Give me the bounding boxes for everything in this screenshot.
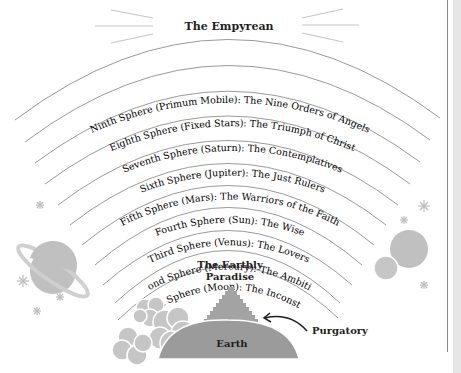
star-icon xyxy=(36,201,44,209)
earthly-paradise-label-line2: Paradise xyxy=(206,271,254,282)
earth-label: Earth xyxy=(216,338,248,349)
sphere-6-label: Sixth Sphere (Jupiter): The Just Rulers xyxy=(138,167,327,195)
cloud-icon xyxy=(112,327,152,365)
star-icon xyxy=(17,275,29,287)
arc-outer xyxy=(15,39,440,120)
diagram-canvas: The Empyrean Ninth Sphere (Primum Mobile… xyxy=(0,0,461,373)
star-icon xyxy=(420,281,428,289)
ringed-planet-icon xyxy=(13,239,93,304)
empyrean-label: The Empyrean xyxy=(184,20,273,33)
star-icon xyxy=(56,293,64,301)
earthly-paradise-label-line1: The Earthly xyxy=(197,259,264,270)
star-icon xyxy=(400,216,408,224)
star-icon xyxy=(418,200,430,212)
panel-divider xyxy=(447,0,448,352)
dante-paradise-diagram: The Empyrean Ninth Sphere (Primum Mobile… xyxy=(0,0,461,373)
planets-icon xyxy=(374,230,428,280)
purgatory-label: Purgatory xyxy=(312,325,369,336)
side-panel-edge xyxy=(453,0,461,373)
star-icon xyxy=(33,307,41,315)
sphere-9-label: Ninth Sphere (Primum Mobile): The Nine O… xyxy=(88,94,372,135)
